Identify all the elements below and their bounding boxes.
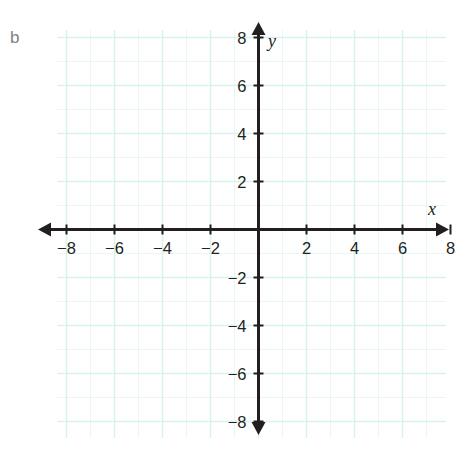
figure-container: b −8−6−4−22468 8642−2−4−6−8 x y (0, 0, 475, 452)
x-axis-label: x (427, 199, 436, 219)
x-tick-label: 8 (446, 239, 455, 257)
y-tick-label: −8 (228, 413, 247, 431)
x-axis-arrow-right (436, 223, 449, 237)
y-tick-label: 8 (237, 29, 246, 47)
y-tick-label: 4 (237, 125, 246, 143)
coordinate-plane-chart: −8−6−4−22468 8642−2−4−6−8 x y (0, 0, 475, 452)
y-tick-label: −6 (228, 365, 247, 383)
x-tick-label: −2 (201, 239, 220, 257)
x-axis-arrow-left (38, 223, 51, 237)
y-axis-arrow-up (252, 22, 266, 35)
y-tick-label: 6 (237, 77, 246, 95)
x-tick-label: 2 (302, 239, 311, 257)
x-tick-label: −6 (105, 239, 124, 257)
x-tick-label: 4 (350, 239, 359, 257)
x-tick-label: 6 (398, 239, 407, 257)
y-tick-label: −2 (228, 269, 247, 287)
y-axis-arrow-down (252, 422, 266, 435)
x-tick-label: −8 (57, 239, 76, 257)
y-tick-label: 2 (237, 173, 246, 191)
y-tick-label: −4 (228, 317, 247, 335)
x-tick-label: −4 (153, 239, 172, 257)
y-axis-label: y (266, 31, 276, 51)
